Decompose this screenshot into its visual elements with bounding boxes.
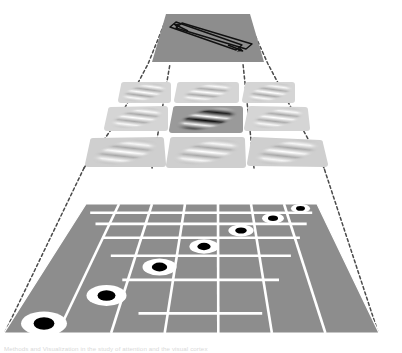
figure-root: Methods and Visualization in the study o… bbox=[0, 0, 402, 353]
gabor-cell-2-3[interactable] bbox=[244, 102, 310, 134]
rf-dot-5[interactable] bbox=[143, 258, 177, 275]
rf-dot-3[interactable] bbox=[228, 224, 253, 236]
gabor-cell-3-1[interactable] bbox=[85, 133, 166, 172]
gabor-layer[interactable] bbox=[85, 78, 328, 172]
ghost-caption: Methods and Visualization in the study o… bbox=[4, 345, 398, 352]
rf-dot-7[interactable] bbox=[21, 312, 67, 336]
rf-dot-1[interactable] bbox=[291, 204, 310, 213]
gabor-cell-3-3[interactable] bbox=[247, 133, 328, 172]
diagram-canvas bbox=[0, 0, 402, 353]
gabor-cell-1-2[interactable] bbox=[174, 78, 239, 108]
gabor-cell-3-2[interactable] bbox=[166, 132, 246, 171]
rf-dot-4[interactable] bbox=[189, 239, 218, 253]
rf-dot-6[interactable] bbox=[87, 285, 127, 306]
gabor-cell-2-2[interactable] bbox=[169, 101, 243, 137]
center-surround-layer[interactable] bbox=[4, 204, 379, 336]
gabor-cell-1-1[interactable] bbox=[118, 78, 171, 106]
rf-dot-2[interactable] bbox=[262, 213, 284, 223]
gabor-cell-2-1[interactable] bbox=[104, 102, 168, 134]
gabor-cell-1-3[interactable] bbox=[242, 78, 295, 106]
motion-direction-panel[interactable] bbox=[152, 14, 264, 62]
